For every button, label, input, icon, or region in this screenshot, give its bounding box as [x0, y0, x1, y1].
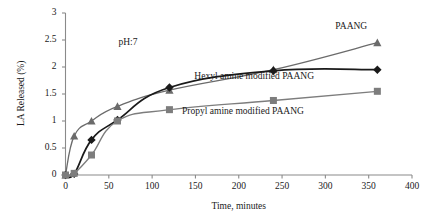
data-point-propyl-amine-modified-paang	[71, 170, 78, 177]
y-tick-label: 1.5	[31, 88, 57, 98]
y-tick-label: 0	[31, 169, 57, 179]
series-line-propyl-amine-modified-paang	[66, 91, 378, 175]
x-tick-label: 250	[266, 181, 298, 191]
x-tick-label: 100	[136, 181, 168, 191]
series-label-propyl-amine-modified-paang: Propyl amine modified PAANG	[182, 106, 304, 116]
data-point-propyl-amine-modified-paang	[62, 172, 69, 179]
y-tick-label: 0.5	[31, 142, 57, 152]
data-point-propyl-amine-modified-paang	[114, 118, 121, 125]
data-point-propyl-amine-modified-paang	[374, 88, 381, 95]
y-tick-label: 2	[31, 61, 57, 71]
data-point-paang	[70, 132, 78, 140]
axes-layer	[62, 13, 412, 179]
y-tick-label: 2.5	[31, 34, 57, 44]
data-point-propyl-amine-modified-paang	[270, 97, 277, 104]
data-point-paang	[113, 102, 121, 110]
x-axis-title: Time, minutes	[159, 201, 319, 211]
data-point-propyl-amine-modified-paang	[88, 152, 95, 159]
x-tick-label: 200	[223, 181, 255, 191]
y-tick-label: 3	[31, 7, 57, 17]
x-tick-label: 400	[396, 181, 428, 191]
x-tick-label: 350	[353, 181, 385, 191]
x-tick-label: 300	[309, 181, 341, 191]
series-label-hexyl-amine-modified-paang: Hexyl amine modified PAANG	[194, 71, 314, 81]
data-point-paang	[87, 117, 95, 125]
ph-annotation: pH:7	[118, 37, 137, 47]
y-tick-label: 1	[31, 115, 57, 125]
x-tick-label: 0	[50, 181, 82, 191]
data-point-paang	[373, 39, 381, 47]
y-axis-title: LA Released (%)	[16, 61, 26, 126]
series-line-hexyl-amine-modified-paang	[66, 69, 378, 178]
data-point-propyl-amine-modified-paang	[166, 106, 173, 113]
x-tick-label: 50	[93, 181, 125, 191]
x-tick-label: 150	[179, 181, 211, 191]
data-point-hexyl-amine-modified-paang	[373, 66, 381, 74]
series-label-paang: PAANG	[335, 21, 367, 31]
chart-figure: 00.511.522.53 050100150200250300350400 L…	[0, 0, 440, 221]
